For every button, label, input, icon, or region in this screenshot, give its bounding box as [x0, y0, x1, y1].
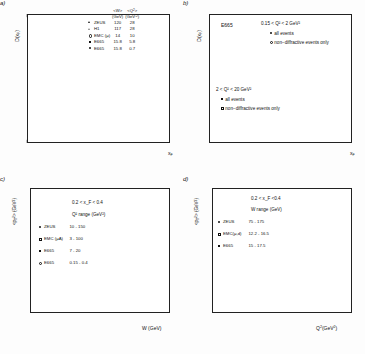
panel-b-bottom-item-1: non−diffractive events only — [220, 106, 280, 111]
panel-d: <pT2> (GeV2) Q2(GeV2) d) 0.2 < x_F <0.4 … — [183, 176, 365, 354]
legend-row: ZEUS 10 - 150 — [38, 222, 90, 234]
legend-range: 75 - 175 — [248, 217, 271, 229]
marker-dot-icon — [217, 220, 221, 224]
legend-name: E665 — [94, 46, 112, 52]
legend-range: 15 - 17.5 — [248, 241, 271, 253]
marker-dot-icon — [88, 46, 92, 50]
legend-label: all events — [225, 97, 244, 102]
legend-name: E665 — [44, 246, 69, 258]
marker-square-icon — [220, 97, 224, 101]
legend-range: 12.2 - 16.5 — [248, 229, 271, 241]
panel-b-top-item-0: all events — [269, 31, 294, 36]
legend-label: non−diffractive events only — [225, 106, 279, 111]
legend-label: non−diffractive events only — [274, 40, 328, 45]
panel-d-ylabel: <pT2> (GeV2) — [194, 198, 200, 225]
legend-label: all events — [274, 31, 293, 36]
legend-range: 0.15 - 0.4 — [69, 258, 89, 270]
panel-a-ylabel: D(xF) — [14, 30, 21, 42]
marker-square-icon — [88, 40, 92, 44]
panel-a-id: a) — [0, 0, 5, 6]
marker-triangle-icon — [88, 21, 92, 25]
legend-row: E665 15 - 17.5 — [217, 241, 271, 253]
panel-c-xlabel: W (GeV) — [142, 325, 161, 331]
marker-open-circle-icon — [88, 33, 92, 37]
marker-open-triangle-icon — [88, 27, 92, 31]
legend-range: 10 - 150 — [69, 222, 89, 234]
panel-b-bottom-range: 2 < Q² < 20 GeV² — [216, 87, 251, 92]
panel-b-bottom-item-0: all events — [220, 97, 245, 102]
marker-dot-icon — [269, 31, 273, 35]
legend-w: 15.8 — [112, 46, 125, 52]
panel-d-anno-range: W range (GeV) — [251, 207, 282, 212]
panel-a-legend: <W> <Q2> (GeV) (GeV-2) ZEUS 120 28 H1 — [88, 9, 141, 53]
marker-open-square-icon — [217, 232, 221, 236]
marker-open-circle-icon — [38, 261, 42, 265]
legend-q2: 0.7 — [125, 46, 141, 52]
legend-row: EMC (μA) 3 - 100 — [38, 234, 90, 246]
legend-row: ZEUS 75 - 175 — [217, 217, 271, 229]
panel-b-top-item-1: non−diffractive events only — [269, 40, 329, 45]
legend-name: EMC(μ,d) — [223, 229, 248, 241]
panel-b-ylabel: D(xF) — [196, 30, 203, 42]
panel-b-experiment: E665 — [221, 22, 233, 28]
marker-open-square-icon — [220, 106, 224, 110]
marker-square-icon — [217, 244, 221, 248]
marker-square-icon — [38, 249, 42, 253]
legend-row: E665 0.15 - 0.4 — [38, 258, 90, 270]
panel-c-anno-range: Q² range (GeV²) — [72, 212, 105, 217]
legend-name: ZEUS — [44, 222, 69, 234]
panel-b-id: b) — [183, 0, 188, 6]
panel-b-xlabel: xF — [350, 150, 355, 157]
panel-a: D(xF) xF a) <W> <Q2> (GeV) (GeV-2) ZEUS — [0, 0, 183, 176]
legend-range: 7 - 20 — [69, 246, 89, 258]
legend-name: ZEUS — [223, 217, 248, 229]
legend-row: E665 15.8 0.7 — [88, 46, 141, 52]
panel-b: D(xF) xF b) E665 0.15 < Q² < 2 GeV² all … — [183, 0, 365, 176]
legend-name: E665 — [223, 241, 248, 253]
panel-a-xlabel: xF — [168, 150, 173, 157]
marker-dot-icon — [38, 225, 42, 229]
legend-name: E665 — [44, 258, 69, 270]
panel-c-anno-xf: 0.2 < x_F < 0.4 — [72, 200, 103, 205]
panel-c-id: c) — [0, 176, 5, 182]
panel-d-graphics — [183, 176, 365, 354]
panel-b-graphics — [183, 0, 365, 176]
marker-open-square-icon — [38, 237, 42, 241]
panel-c: <pT2> (GeV2) W (GeV) c) 0.2 < x_F < 0.4 … — [0, 176, 183, 354]
panel-c-legend: ZEUS 10 - 150 EMC (μA) 3 - 100 E665 7 - … — [38, 222, 90, 270]
legend-range: 3 - 100 — [69, 234, 89, 246]
legend-row: E665 7 - 20 — [38, 246, 90, 258]
panel-d-id: d) — [183, 176, 188, 182]
figure-container: D(xF) xF a) <W> <Q2> (GeV) (GeV-2) ZEUS — [0, 0, 365, 354]
panel-d-legend: ZEUS 75 - 175 EMC(μ,d) 12.2 - 16.5 E665 … — [217, 217, 271, 253]
legend-name: EMC (μA) — [44, 234, 69, 246]
marker-open-circle-icon — [269, 40, 273, 44]
panel-d-xlabel: Q2(GeV2) — [316, 325, 337, 331]
panel-b-top-range: 0.15 < Q² < 2 GeV² — [261, 21, 300, 26]
panel-d-anno-xf: 0.2 < x_F <0.4 — [251, 196, 281, 201]
panel-c-ylabel: <pT2> (GeV2) — [12, 198, 18, 225]
legend-row: EMC(μ,d) 12.2 - 16.5 — [217, 229, 271, 241]
